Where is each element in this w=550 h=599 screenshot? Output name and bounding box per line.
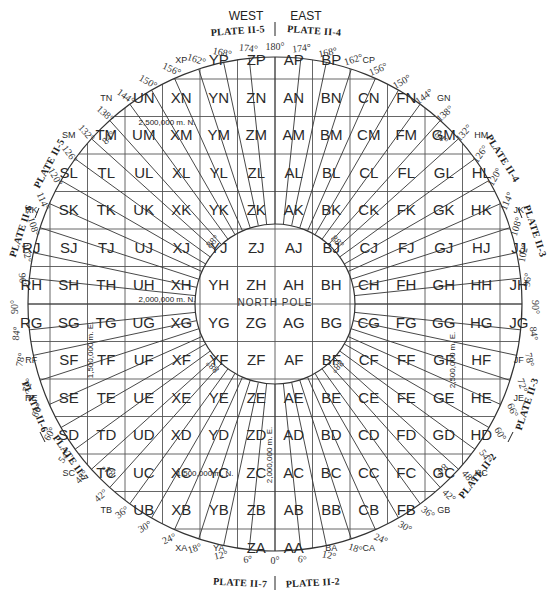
longitude-label: 30° [136, 518, 154, 535]
grid-cell-gh: GH [433, 276, 456, 293]
grid-cell-fb: FB [397, 501, 416, 518]
plate-ii-4-top: PLATE II-4 [287, 23, 342, 38]
grid-cell-xl: XL [172, 164, 190, 181]
grid-cell-uf: UF [134, 351, 154, 368]
grid-cell-gj: GJ [434, 239, 453, 256]
grid-cell-cd: CD [358, 426, 380, 443]
grid-cell-tn: TN [100, 93, 112, 103]
plate-ii-2-bottom: PLATE II-2 [285, 576, 340, 590]
grid-cell-zl: ZL [247, 164, 265, 181]
grid-cell-tf: TF [97, 351, 115, 368]
grid-cell-td: TD [96, 426, 116, 443]
longitude-label: 108° [508, 216, 524, 237]
grid-cell-xj: XJ [172, 239, 190, 256]
grid-cell-fg: FG [396, 314, 417, 331]
grid-cell-gn: GN [437, 93, 451, 103]
grid-cell-zc: ZC [246, 464, 266, 481]
grid-cell-bd: BD [321, 426, 342, 443]
grid-cell-um: UM [132, 126, 155, 143]
grid-cell-yk: YK [209, 201, 229, 218]
grid-cell-ak: AK [284, 201, 304, 218]
grid-cell-yb: YB [209, 501, 229, 518]
plate-ii-7-bottom: PLATE II-7 [213, 576, 268, 590]
grid-cell-fm: FM [395, 126, 417, 143]
longitude-label: 18° [186, 541, 203, 556]
grid-cell-ue: UE [133, 389, 154, 406]
grid-cell-zm: ZM [245, 126, 267, 143]
grid-cell-gl: GL [434, 164, 454, 181]
longitude-label: 42° [440, 487, 458, 505]
grid-cell-sm: SM [62, 130, 76, 140]
grid-cell-uc: UC [133, 464, 155, 481]
longitude-label: 90° [530, 300, 541, 314]
grid-cell-hg: HG [470, 314, 493, 331]
grid-cell-tj: TJ [98, 239, 115, 256]
grid-cell-aj: AJ [285, 239, 303, 256]
grid-cell-cp: CP [362, 55, 375, 65]
grid-cell-hh: HH [470, 276, 492, 293]
grid-cell-sf: SF [59, 351, 78, 368]
east-label: EAST [290, 9, 322, 23]
grid-cell-sg: SG [58, 314, 80, 331]
longitude-label: 60° [492, 425, 509, 443]
grid-cell-cb: CB [358, 501, 379, 518]
longitude-label: 6° [243, 553, 253, 565]
longitude-label: 84° [10, 326, 22, 341]
grid-cell-ck: CK [358, 201, 379, 218]
grid-cell-af: AF [284, 351, 303, 368]
grid-cell-ud: UD [133, 426, 155, 443]
grid-cell-zg: ZG [246, 314, 267, 331]
grid-cell-cm: CM [357, 126, 380, 143]
longitude-label: 96° [17, 272, 29, 287]
grid-cell-cj: CJ [360, 239, 378, 256]
grid-cell-ah: AH [283, 276, 304, 293]
grid-cell-fk: FK [397, 201, 416, 218]
easting-1500000: 1,500,000 m. E. [86, 322, 95, 378]
grid-cell-he: HE [471, 389, 492, 406]
grid-cell-sk: SK [59, 201, 79, 218]
grid-cell-ch: CH [358, 276, 380, 293]
grid-cell-bn: BN [321, 89, 342, 106]
grid-cell-tk: TK [97, 201, 116, 218]
north-pole-label: NORTH POLE [238, 297, 313, 308]
grid-cell-gb: GB [437, 505, 450, 515]
grid-cell-fc: FC [396, 464, 416, 481]
grid-cell-cn: CN [358, 89, 380, 106]
grid-cell-zj: ZJ [248, 239, 265, 256]
grid-cell-ad: AD [283, 426, 304, 443]
grid-cell-fd: FD [396, 426, 416, 443]
plate-ii-5-top: PLATE II-5 [210, 23, 265, 38]
grid-cell-gg: GG [432, 314, 455, 331]
grid-cell-am: AM [283, 126, 306, 143]
grid-cell-ae: AE [284, 389, 304, 406]
longitude-label: 0° [271, 555, 280, 566]
grid-cell-uh: UH [133, 276, 155, 293]
longitude-label: 162° [343, 51, 364, 67]
grid-cell-yn: YN [208, 89, 229, 106]
grid-cell-xe: XE [171, 389, 191, 406]
longitude-label: 12° [213, 548, 229, 562]
longitude-label: 132° [76, 122, 97, 143]
easting-2500000: 2,500,000 m. E. [448, 332, 457, 388]
grid-cell-be: BE [321, 389, 341, 406]
grid-cell-te: TE [97, 389, 116, 406]
grid-cell-cc: CC [358, 464, 380, 481]
northing-2000000: 2,000,000 m. N. [139, 295, 196, 304]
grid-cell-sj: SJ [60, 239, 78, 256]
grid-cell-cl: CL [359, 164, 378, 181]
grid-cell-ym: YM [208, 126, 231, 143]
grid-cell-an: AN [283, 89, 304, 106]
grid-cell-uj: UJ [135, 239, 153, 256]
longitude-label: 78° [523, 352, 537, 368]
grid-cell-yh: YH [208, 276, 229, 293]
grid-cell-bc: BC [321, 464, 342, 481]
grid-cell-fh: FH [396, 276, 416, 293]
grid-cell-ca: CA [362, 543, 375, 553]
grid-cell-hd: HD [470, 426, 492, 443]
longitude-label: 132° [453, 122, 474, 143]
northing-2500000: 2,500,000 m. N. [139, 118, 196, 127]
grid-cell-xh: XH [171, 276, 192, 293]
plate-ii-6-left-lower: PLATE II-6 [20, 379, 51, 433]
grid-cell-tg: TG [96, 314, 117, 331]
grid-cell-fj: FJ [398, 239, 415, 256]
